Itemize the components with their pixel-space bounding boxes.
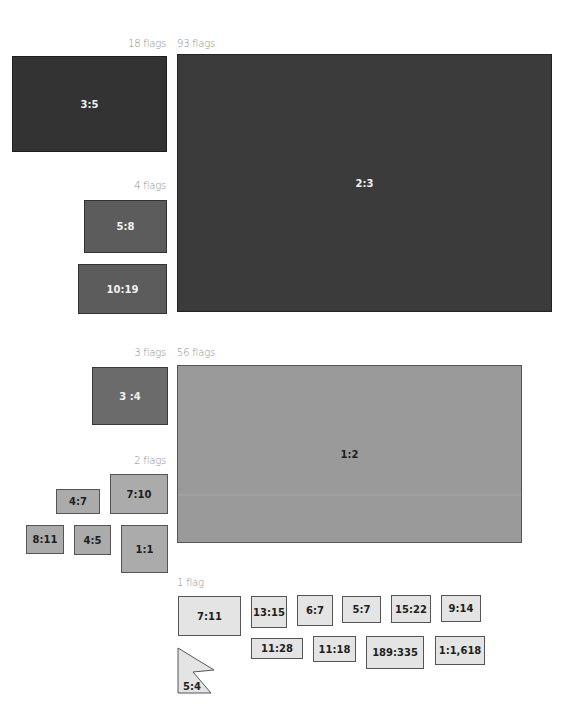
count-label-3: 3 flags [100, 347, 166, 358]
flag-ratio-6-7: 6:7 [297, 595, 333, 626]
flag-ratio-5-7: 5:7 [342, 596, 381, 623]
count-label-1: 1 flag [177, 577, 204, 588]
ratio-label: 1:1 [136, 544, 154, 555]
ratio-label: 1:2 [341, 449, 359, 460]
flag-ratio-4-5: 4:5 [74, 525, 111, 555]
ratio-label: 7:11 [197, 611, 222, 622]
flag-ratio-7-11: 7:11 [178, 596, 241, 636]
flag-ratio-3-4: 3 :4 [92, 367, 168, 425]
ratio-label: 5:7 [353, 604, 371, 615]
flag-ratio-2-3: 2:3 [177, 54, 552, 312]
flag-ratio-8-11: 8:11 [26, 525, 64, 554]
flag-ratio-1-1618: 1:1,618 [435, 636, 485, 665]
ratio-label: 6:7 [306, 605, 324, 616]
ratio-label: 5:8 [117, 221, 135, 232]
count-label-56: 56 flags [177, 347, 215, 358]
ratio-label: 15:22 [395, 604, 427, 615]
flag-ratio-1-1: 1:1 [121, 525, 168, 573]
flag-ratio-11-18: 11:18 [313, 636, 356, 662]
flag-ratio-4-7: 4:7 [56, 489, 100, 514]
ratio-label: 9:14 [449, 603, 474, 614]
ratio-label: 189:335 [372, 647, 418, 658]
count-label-93: 93 flags [177, 38, 215, 49]
ratio-label: 3:5 [81, 99, 99, 110]
flag-ratio-1-2: 1:2 [177, 365, 522, 543]
count-label-4: 4 flags [100, 180, 166, 191]
ratio-label: 3 :4 [119, 391, 140, 402]
flag-ratio-7-10: 7:10 [110, 474, 168, 514]
ratio-label: 4:5 [84, 535, 102, 546]
flag-ratio-9-14: 9:14 [441, 595, 481, 622]
ratio-label: 7:10 [127, 489, 152, 500]
flag-ratio-13-15: 13:15 [251, 596, 287, 628]
ratio-label: 11:18 [319, 644, 351, 655]
texture-streak [178, 494, 521, 496]
flag-ratio-5-8: 5:8 [84, 200, 167, 253]
flag-ratio-3-5: 3:5 [12, 56, 167, 152]
ratio-label: 10:19 [107, 284, 139, 295]
ratio-label: 4:7 [69, 496, 87, 507]
ratio-label-5-4: 5:4 [183, 681, 201, 692]
ratio-label: 1:1,618 [439, 645, 482, 656]
ratio-label: 8:11 [33, 534, 58, 545]
flag-ratio-11-28: 11:28 [251, 638, 303, 659]
flag-ratio-15-22: 15:22 [391, 595, 431, 623]
flag-ratio-189-335: 189:335 [366, 636, 424, 669]
count-label-2: 2 flags [100, 455, 166, 466]
flag-ratio-10-19: 10:19 [78, 264, 167, 314]
ratio-label: 11:28 [261, 643, 293, 654]
ratio-label: 13:15 [253, 607, 285, 618]
ratio-label: 2:3 [356, 178, 374, 189]
count-label-18: 18 flags [100, 38, 166, 49]
